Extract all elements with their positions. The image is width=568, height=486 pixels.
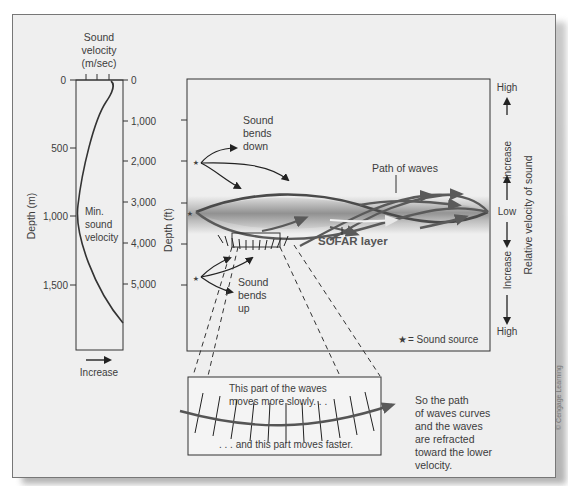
relative-velocity-scale: High Increase Low Increase High Relative… [497,82,534,337]
detail-box: This part of the waves moves more slowly… [180,377,392,455]
depth-m-0: 0 [60,75,66,86]
profile-title-3: (m/sec) [82,57,117,69]
depth-ft-0: 0 [131,75,137,86]
depth-m-label: Depth (m) [25,193,37,240]
source-lower-icon: ★ [193,275,199,282]
bends-down-1: Sound [243,114,274,126]
scale-increase-lower: Increase [502,250,513,289]
slow-text-1: This part of the waves [229,383,327,394]
scale-increase-upper: Increase [502,140,513,179]
min-velocity-3: velocity [85,232,118,243]
bends-down-3: down [243,140,268,152]
bends-up-1: Sound [238,276,269,288]
legend-text: = Sound source [408,334,479,345]
scale-high-top: High [497,82,518,93]
explanation-text: So the path of waves curves and the wave… [415,394,492,472]
increase-label: Increase [80,367,119,378]
bends-up-2: bends [238,289,267,301]
velocity-profile-chart: Sound velocity (m/sec) 0 500 1,000 1,500… [25,31,156,378]
profile-title-2: velocity [81,44,117,56]
depth-ft-5000: 5,000 [131,279,156,290]
depth-ft-1000: 1,000 [131,116,156,127]
relative-velocity-label: Relative velocity of sound [522,155,534,274]
min-velocity-1: Min. [85,206,104,217]
depth-ft-4000: 4,000 [131,238,156,249]
scale-low: Low [498,206,517,217]
bends-down-2: bends [243,127,272,139]
depth-ft-3000: 3,000 [131,197,156,208]
source-mid-icon: ★ [187,210,193,217]
legend-star-icon: ★ [398,334,407,345]
depth-m-1500: 1,500 [43,280,68,291]
min-velocity-2: sound [85,219,112,230]
sofar-label: SOFAR layer [318,235,388,247]
bends-up-3: up [238,302,250,314]
copyright-credit: © Cengage Learning [555,365,562,430]
source-upper-icon: ★ [193,159,199,166]
depth-ft-2000: 2,000 [131,156,156,167]
profile-title-1: Sound [84,31,115,43]
path-of-waves-label: Path of waves [372,162,438,174]
depth-m-1000: 1,000 [43,211,68,222]
sofar-panel: Depth (ft) ★ ★ ★ [162,79,490,351]
slow-text-2: moves more slowly. . . [229,396,327,407]
depth-m-500: 500 [51,143,68,154]
depth-ft-label: Depth (ft) [162,208,174,252]
scale-high-bottom: High [497,326,518,337]
